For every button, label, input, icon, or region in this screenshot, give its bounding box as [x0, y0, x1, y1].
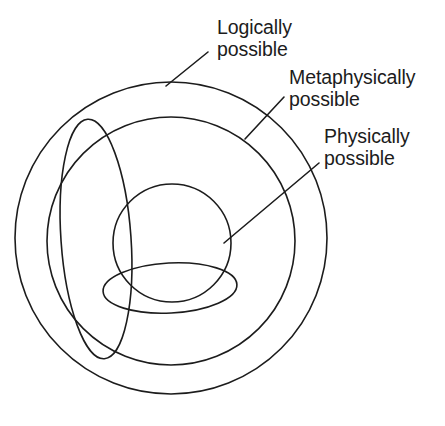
label-metaphysically-possible: Metaphysically possible: [289, 66, 415, 110]
leader-line-logically: [166, 52, 208, 86]
logically-possible-circle: [15, 82, 327, 394]
leader-line-physically: [224, 163, 319, 243]
label-logically-possible: Logically possible: [217, 16, 292, 60]
diagram-canvas: [0, 0, 445, 426]
tall-left-ellipse: [53, 117, 140, 361]
venn-diagram: Logically possible Metaphysically possib…: [0, 0, 445, 426]
flat-bottom-ellipse: [102, 260, 238, 317]
label-physically-possible: Physically possible: [324, 125, 410, 169]
metaphysically-possible-circle: [47, 117, 295, 365]
